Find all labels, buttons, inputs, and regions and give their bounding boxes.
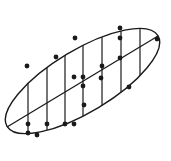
data-point bbox=[81, 75, 86, 80]
scatter-ellipse-diagram bbox=[0, 0, 171, 161]
data-point bbox=[100, 64, 105, 69]
data-point bbox=[82, 103, 87, 108]
data-point bbox=[35, 133, 40, 138]
data-point bbox=[81, 84, 86, 89]
data-point bbox=[45, 122, 50, 127]
data-point bbox=[26, 122, 31, 127]
data-points bbox=[25, 26, 160, 138]
data-point bbox=[99, 76, 104, 81]
data-point bbox=[26, 131, 31, 136]
data-point bbox=[54, 55, 59, 60]
data-point bbox=[118, 36, 123, 41]
data-point bbox=[25, 64, 30, 69]
data-point bbox=[118, 26, 123, 31]
data-point bbox=[72, 75, 77, 80]
data-point bbox=[118, 56, 123, 61]
data-point bbox=[155, 37, 160, 42]
data-point bbox=[63, 122, 68, 127]
confidence-ellipse bbox=[0, 9, 171, 153]
data-point bbox=[127, 85, 132, 90]
data-point bbox=[72, 122, 77, 127]
data-point bbox=[73, 36, 78, 41]
